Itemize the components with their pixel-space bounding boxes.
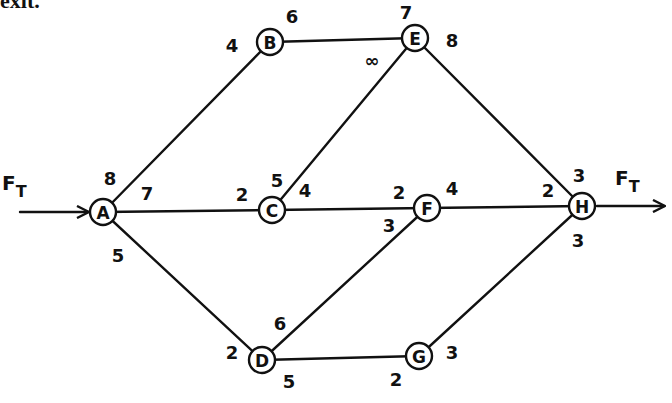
edge-b-e [270,38,415,42]
capacity-label-e-h-at-h: 3 [573,165,586,186]
edge-e-h [415,38,582,206]
node-g: G [406,343,432,369]
capacity-label-a-b-at-b: 4 [226,35,239,56]
capacity-label-e-h-at-e: 8 [446,30,459,51]
capacity-label-b-e-at-b: 6 [286,6,299,27]
node-f: F [414,195,440,221]
capacity-label-d-g-at-g: 2 [390,369,403,390]
capacity-label-f-h-at-h: 2 [542,180,555,201]
capacity-label-c-e-at-c: 5 [271,170,284,191]
capacity-labels-layer: 8754678∞25424332362523 [104,2,586,392]
edge-a-c [103,210,272,212]
edge-d-g [262,356,419,360]
node-d: D [249,347,275,373]
capacity-label-g-h-at-g: 3 [446,342,459,363]
capacity-label-a-c-at-c: 2 [236,184,249,205]
flow-network-diagram: ABCDEFGH 8754678∞25424332362523 FT FT [0,0,672,403]
edge-c-f [272,208,427,210]
edge-d-f [262,208,427,360]
nodes-layer: ABCDEFGH [90,25,595,373]
capacity-label-a-c-at-a: 7 [141,183,154,204]
node-label: C [266,201,278,221]
capacity-label-a-d-at-d: 2 [226,342,239,363]
capacity-label-d-f-at-f: 3 [383,215,396,236]
capacity-label-g-h-at-h: 3 [572,230,585,251]
capacity-label-c-e-at-e: ∞ [365,50,380,71]
node-label: H [575,197,589,217]
node-label: E [409,29,421,49]
edge-f-h [427,206,582,208]
capacity-label-a-b-at-a: 8 [104,168,117,189]
node-label: D [255,351,269,371]
node-e: E [402,25,428,51]
node-label: G [412,347,426,367]
capacity-label-b-e-at-e: 7 [400,2,413,23]
capacity-label-d-f-at-d: 6 [274,313,287,334]
node-label: F [421,199,433,219]
edge-g-h [419,206,582,356]
edges-layer [103,38,582,360]
capacity-label-a-d-at-a: 5 [112,245,125,266]
edge-a-d [103,212,262,360]
capacity-label-d-g-at-d: 5 [283,371,296,392]
node-h: H [569,193,595,219]
node-b: B [257,29,283,55]
capacity-label-c-f-at-c: 4 [299,180,312,201]
node-label: B [264,33,277,53]
node-label: A [96,203,110,223]
capacity-label-f-h-at-f: 4 [446,178,459,199]
sink-label: FT [615,166,640,196]
node-a: A [90,199,116,225]
node-c: C [259,197,285,223]
capacity-label-c-f-at-f: 2 [393,182,406,203]
source-label: FT [2,171,27,201]
